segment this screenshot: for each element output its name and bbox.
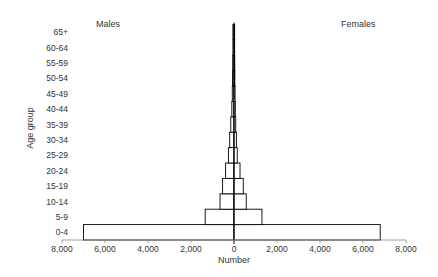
bar-females-0-4 bbox=[234, 225, 380, 240]
bar-males-20-24 bbox=[226, 163, 234, 178]
y-tick-label: 0-4 bbox=[56, 227, 69, 237]
bar-males-0-4 bbox=[84, 225, 235, 240]
bar-females-15-19 bbox=[234, 178, 243, 193]
x-tick-label: 4,000 bbox=[309, 244, 331, 254]
x-tick-label: 6,000 bbox=[94, 244, 116, 254]
x-axis-title: Number bbox=[218, 255, 250, 265]
bar-males-15-19 bbox=[223, 178, 234, 193]
y-tick-label: 60-64 bbox=[46, 43, 68, 53]
x-tick-label: 0 bbox=[232, 244, 237, 254]
y-tick-label: 30-34 bbox=[46, 135, 68, 145]
bars-group bbox=[84, 22, 381, 244]
y-axis-title: Age group bbox=[25, 107, 35, 149]
y-tick-label: 25-29 bbox=[46, 150, 68, 160]
x-tick-label: 8,000 bbox=[51, 244, 73, 254]
y-tick-label: 15-19 bbox=[46, 181, 68, 191]
bar-females-10-14 bbox=[234, 194, 246, 209]
y-tick-label: 50-54 bbox=[46, 73, 68, 83]
y-tick-label: 40-44 bbox=[46, 104, 68, 114]
bar-females-5-9 bbox=[234, 209, 262, 224]
x-tick-label: 2,000 bbox=[180, 244, 202, 254]
bar-males-25-29 bbox=[228, 148, 234, 163]
population-pyramid-chart: 0-45-910-1415-1920-2425-2930-3435-3940-4… bbox=[0, 0, 438, 277]
y-axis: 0-45-910-1415-1920-2425-2930-3435-3940-4… bbox=[46, 27, 68, 237]
x-tick-label: 8,000 bbox=[395, 244, 417, 254]
x-axis: 8,0006,0004,0002,00002,0004,0006,0008,00… bbox=[51, 240, 417, 254]
x-tick-label: 6,000 bbox=[352, 244, 374, 254]
x-tick-label: 4,000 bbox=[137, 244, 159, 254]
x-tick-label: 2,000 bbox=[266, 244, 288, 254]
y-tick-label: 20-24 bbox=[46, 166, 68, 176]
bar-males-30-34 bbox=[230, 132, 234, 147]
bar-males-10-14 bbox=[220, 194, 234, 209]
y-tick-label: 65+ bbox=[54, 27, 68, 37]
y-tick-label: 45-49 bbox=[46, 89, 68, 99]
y-tick-label: 55-59 bbox=[46, 58, 68, 68]
y-tick-label: 10-14 bbox=[46, 197, 68, 207]
y-tick-label: 35-39 bbox=[46, 120, 68, 130]
legend-females: Females bbox=[341, 19, 376, 29]
legend-males: Males bbox=[96, 19, 121, 29]
bar-males-5-9 bbox=[205, 209, 234, 224]
y-tick-label: 5-9 bbox=[56, 212, 69, 222]
bar-females-20-24 bbox=[234, 163, 240, 178]
